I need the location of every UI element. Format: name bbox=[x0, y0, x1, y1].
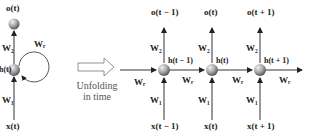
output-label-t+1: o(t + 1) bbox=[247, 8, 275, 17]
folded-w-out-label: W₂ bbox=[2, 44, 14, 53]
w-out-label-t+1: W₂ bbox=[246, 44, 258, 53]
w-in-label-t: W₁ bbox=[198, 96, 210, 105]
output-label-t-1: o(t − 1) bbox=[151, 8, 179, 17]
folded-hidden-label: h(t) bbox=[0, 66, 11, 74]
rnn-unfolding-diagram: o(t) W₂ Wᵣ h(t) W₁ x(t) Unfolding in tim… bbox=[0, 0, 310, 138]
folded-rnn bbox=[8, 19, 49, 121]
hidden-label-t: h(t) bbox=[216, 57, 228, 65]
w-in-label-t-1: W₁ bbox=[150, 96, 162, 105]
w-in-label-t+1: W₁ bbox=[246, 96, 258, 105]
w-rec-label-t+1: Wᵣ bbox=[279, 76, 290, 85]
unfolded-rnn bbox=[120, 28, 302, 120]
w-out-label-t-1: W₂ bbox=[150, 44, 162, 53]
hidden-node-t-1 bbox=[158, 64, 170, 76]
input-label-t+1: x(t + 1) bbox=[247, 122, 275, 131]
unfold-arrow-icon bbox=[78, 58, 114, 76]
w-rec-label-t-1: Wᵣ bbox=[182, 76, 193, 85]
output-label-t: o(t) bbox=[204, 8, 218, 17]
caption-line-2: in time bbox=[66, 91, 128, 102]
hidden-node-t+1 bbox=[254, 64, 266, 76]
w-out-label-t: W₂ bbox=[198, 44, 210, 53]
hidden-label-t+1: h(t + 1) bbox=[264, 57, 289, 65]
recurrent-loop bbox=[19, 52, 49, 82]
diagram-graphics bbox=[0, 0, 310, 138]
hidden-node-t bbox=[206, 64, 218, 76]
incoming-w-rec-label: Wᵣ bbox=[134, 78, 145, 87]
caption-line-1: Unfolding bbox=[66, 80, 128, 91]
folded-w-in-label: W₁ bbox=[2, 96, 14, 105]
input-label-t-1: x(t − 1) bbox=[151, 122, 179, 131]
folded-output-label: o(t) bbox=[6, 4, 20, 13]
w-rec-label-t: Wᵣ bbox=[232, 76, 243, 85]
unfolding-caption: Unfolding in time bbox=[66, 80, 128, 102]
folded-w-rec-label: Wᵣ bbox=[34, 40, 45, 49]
output-node bbox=[9, 19, 20, 30]
folded-input-label: x(t) bbox=[6, 122, 20, 131]
input-label-t: x(t) bbox=[204, 122, 218, 131]
hidden-label-t-1: h(t − 1) bbox=[168, 57, 193, 65]
